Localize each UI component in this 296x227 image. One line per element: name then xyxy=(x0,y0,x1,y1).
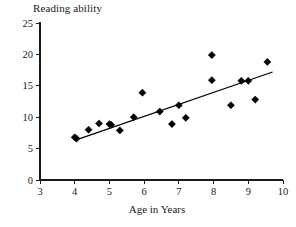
y-tick-15: 15 xyxy=(23,80,34,91)
data-point xyxy=(182,114,189,121)
data-point xyxy=(227,102,234,109)
data-point xyxy=(208,51,215,58)
data-point xyxy=(175,102,182,109)
x-tick-4: 4 xyxy=(72,186,78,197)
x-tick-10: 10 xyxy=(278,186,289,197)
data-point xyxy=(139,89,146,96)
reading-ability-scatter-chart: Reading ability 0510152025 345678910 Age… xyxy=(0,0,296,227)
y-tick-0: 0 xyxy=(28,175,33,186)
data-point xyxy=(252,96,259,103)
x-tick-8: 8 xyxy=(211,186,216,197)
y-tick-20: 20 xyxy=(23,49,34,60)
chart-plot-area: 0510152025 345678910 xyxy=(0,0,296,227)
y-tick-10: 10 xyxy=(23,112,34,123)
data-point xyxy=(116,127,123,134)
x-tick-5: 5 xyxy=(107,186,112,197)
data-point xyxy=(85,126,92,133)
y-axis-tick-labels: 0510152025 xyxy=(23,18,34,186)
x-tick-7: 7 xyxy=(176,186,181,197)
data-point xyxy=(245,77,252,84)
x-axis-title: Age in Years xyxy=(0,203,296,215)
x-tick-3: 3 xyxy=(37,186,42,197)
data-point xyxy=(95,120,102,127)
x-axis-tick-labels: 345678910 xyxy=(37,186,288,197)
data-point xyxy=(168,121,175,128)
x-tick-6: 6 xyxy=(142,186,147,197)
y-tick-5: 5 xyxy=(28,143,33,154)
data-point-markers xyxy=(71,51,271,142)
data-point xyxy=(208,77,215,84)
axis-tick-marks xyxy=(36,23,283,184)
x-tick-9: 9 xyxy=(246,186,251,197)
data-point xyxy=(156,108,163,115)
y-tick-25: 25 xyxy=(23,18,34,29)
data-point xyxy=(264,58,271,65)
